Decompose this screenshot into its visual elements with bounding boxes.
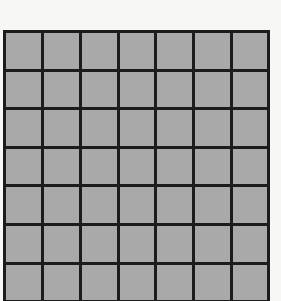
grid-line-horizontal <box>3 30 270 33</box>
grid-line-horizontal <box>3 223 270 226</box>
grid-line-horizontal <box>3 146 270 149</box>
grid-line-horizontal <box>3 262 270 265</box>
grid-line-horizontal <box>3 184 270 187</box>
grid-line-horizontal <box>3 69 270 72</box>
canvas <box>0 0 281 301</box>
square-grid <box>3 30 270 301</box>
grid-line-horizontal <box>3 107 270 110</box>
